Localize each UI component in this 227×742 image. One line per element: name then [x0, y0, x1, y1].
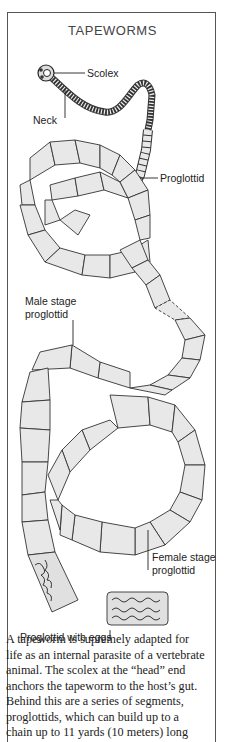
label-neck: Neck	[33, 114, 58, 126]
left-column-segments	[20, 368, 55, 555]
caption-line: life as an internal parasite of a verteb…	[6, 648, 206, 664]
caption-line: Behind this are a series of segments,	[6, 694, 206, 710]
caption-line: proglottids, which can build up to a	[6, 710, 206, 726]
label-female-line1: Female stage	[152, 551, 216, 563]
caption-line: animal. The scolex at the “head” end	[6, 663, 206, 679]
caption-line: chain up to 11 yards (10 meters) long	[6, 725, 206, 741]
egg-proglottid-attached	[28, 552, 78, 612]
caption-text: A tapeworm is supremely adapted for life…	[6, 632, 206, 741]
lower-ring-segments	[48, 395, 205, 555]
label-proglottid: Proglottid	[160, 172, 205, 184]
caption-line: anchors the tapeworm to the host’s gut.	[6, 679, 206, 695]
scolex-head	[38, 65, 54, 81]
label-female-line2: proglottid	[152, 564, 195, 576]
egg-proglottid-detached	[107, 592, 168, 625]
label-male-line1: Male stage	[25, 295, 77, 307]
label-male-line2: proglottid	[25, 308, 68, 320]
caption-line: A tapeworm is supremely adapted for	[6, 632, 206, 648]
label-scolex: Scolex	[87, 67, 119, 79]
